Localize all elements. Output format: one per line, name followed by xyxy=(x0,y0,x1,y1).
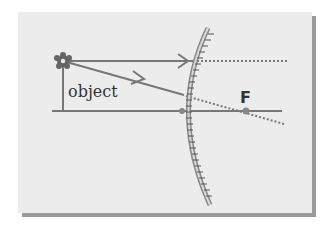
diagram: object F xyxy=(0,0,330,239)
panel xyxy=(18,12,312,213)
object-label: object xyxy=(68,82,118,101)
focal-point-dot xyxy=(243,108,250,115)
mirror-vertex xyxy=(179,108,185,114)
focal-point-label: F xyxy=(240,88,251,107)
diagram-canvas xyxy=(0,0,330,239)
